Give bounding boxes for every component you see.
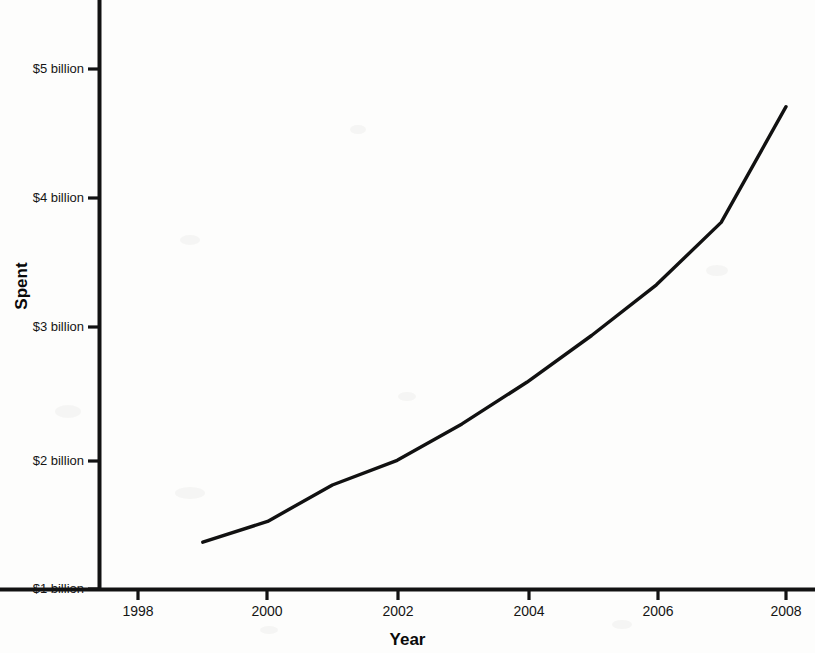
x-tick-label-2006: 2006 <box>618 603 698 619</box>
y-tick-label-4: $4 billion <box>0 190 84 205</box>
y-axis-title: Spent <box>12 251 32 321</box>
y-tick-marks <box>88 69 99 589</box>
y-tick-label-5: $5 billion <box>0 61 84 76</box>
x-tick-label-2004: 2004 <box>489 603 569 619</box>
x-tick-label-1998: 1998 <box>98 603 178 619</box>
plot-area <box>0 0 815 653</box>
line-chart: $5 billion $4 billion $3 billion $2 bill… <box>0 0 815 653</box>
y-tick-label-2: $2 billion <box>0 453 84 468</box>
x-axis-title: Year <box>0 630 815 650</box>
x-tick-label-2000: 2000 <box>227 603 307 619</box>
x-tick-label-2008: 2008 <box>746 603 815 619</box>
y-tick-label-3: $3 billion <box>0 319 84 334</box>
data-series-line <box>203 107 786 543</box>
y-tick-label-1: $1 billion <box>0 581 84 596</box>
x-tick-label-2002: 2002 <box>358 603 438 619</box>
